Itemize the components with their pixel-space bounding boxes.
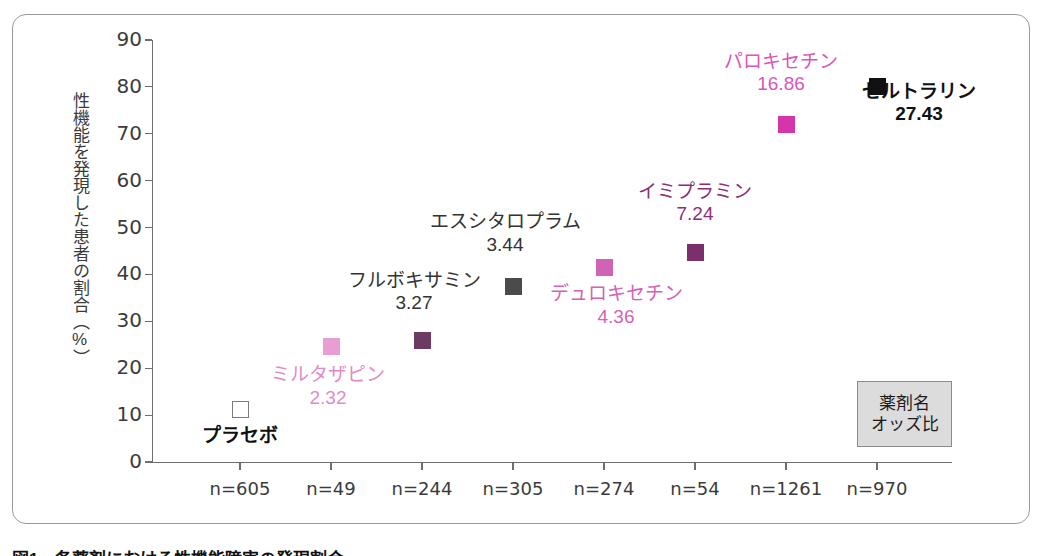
x-tick-mark (330, 462, 331, 470)
x-tick-mark (603, 462, 604, 470)
scatter-plot: 性機能を発現した患者の割合（%） 9080706050403020100 n=6… (0, 0, 1043, 556)
y-axis-line (152, 40, 153, 463)
data-point-marker[interactable] (414, 332, 431, 349)
x-tick-mark (512, 462, 513, 470)
y-tick-mark (145, 461, 152, 462)
x-tick-mark (239, 462, 240, 470)
y-tick-label: 80 (100, 76, 142, 96)
y-tick-mark (145, 86, 152, 87)
x-tick-mark (785, 462, 786, 470)
y-tick-mark (145, 133, 152, 134)
y-tick-mark (145, 180, 152, 181)
legend-line-1: 薬剤名 (879, 395, 930, 412)
data-point-label-name: デュロキセチン (496, 283, 736, 305)
data-point-label-name: パロキセチン (661, 51, 901, 73)
x-tick-mark (421, 462, 422, 470)
legend-box: 薬剤名 オッズ比 (857, 381, 952, 447)
x-tick-label: n=970 (817, 478, 937, 499)
y-tick-label: 30 (100, 310, 142, 330)
y-tick-mark (145, 274, 152, 275)
x-tick-mark (876, 462, 877, 470)
data-point-marker[interactable] (778, 116, 795, 133)
data-point-marker[interactable] (596, 259, 613, 276)
legend-line-2: オッズ比 (871, 416, 939, 433)
x-axis-line (152, 462, 952, 463)
data-point-label-odds: 3.44 (385, 234, 625, 256)
data-point-label: ミルタザピン2.32 (208, 364, 448, 409)
y-tick-label: 90 (100, 29, 142, 49)
data-point-label-odds: 27.43 (799, 103, 1039, 125)
data-point-label-odds: 7.24 (575, 203, 815, 225)
data-point-label: プラセボ (120, 425, 360, 447)
y-tick-label: 50 (100, 217, 142, 237)
figure-caption: 図1 各薬剤における性機能障害の発現割合 (12, 545, 344, 556)
data-point-label-odds: 2.32 (208, 387, 448, 409)
data-point-marker[interactable] (687, 244, 704, 261)
data-point-label: デュロキセチン4.36 (496, 283, 736, 328)
data-point-label: イミプラミン7.24 (575, 181, 815, 226)
y-tick-label: 0 (100, 451, 142, 471)
y-tick-mark (145, 415, 152, 416)
data-point-label-name: プラセボ (120, 425, 360, 447)
data-point-label-odds: 4.36 (496, 306, 736, 328)
x-tick-mark (694, 462, 695, 470)
data-point-label-name: イミプラミン (575, 181, 815, 203)
y-tick-label: 60 (100, 170, 142, 190)
data-point-label-name: ミルタザピン (208, 364, 448, 386)
y-tick-label: 70 (100, 123, 142, 143)
y-axis-title: 性機能を発現した患者の割合（%） (58, 92, 88, 422)
y-tick-label: 10 (100, 404, 142, 424)
data-point-label: セルトラリン27.43 (799, 81, 1039, 126)
y-tick-mark (145, 39, 152, 40)
y-tick-label: 20 (100, 357, 142, 377)
y-tick-mark (145, 321, 152, 322)
data-point-label-name: セルトラリン (799, 81, 1039, 103)
data-point-marker[interactable] (323, 338, 340, 355)
y-tick-mark (145, 227, 152, 228)
y-tick-label: 40 (100, 263, 142, 283)
y-tick-mark (145, 368, 152, 369)
